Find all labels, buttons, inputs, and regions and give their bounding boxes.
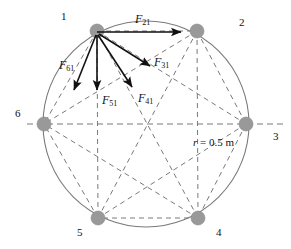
force-label-F21: F21	[135, 13, 150, 25]
vertex-label-3: 3	[273, 131, 279, 142]
vertex-label-2: 2	[239, 17, 245, 28]
vertex-label-4: 4	[216, 227, 222, 238]
vertex-label-1: 1	[61, 11, 67, 22]
chord-2-3	[197, 31, 246, 124]
charge-node-5	[91, 211, 105, 225]
charge-node-4	[191, 211, 205, 225]
force-arrow-F31	[99, 34, 150, 66]
chord-2-6	[44, 31, 197, 124]
chord-5-6	[44, 124, 98, 218]
force-label-F31: F31	[154, 56, 169, 68]
radius-annotation: r = 0.5 m	[193, 137, 234, 148]
force-diagram-figure: 123456F21F31F41F51F61 r = 0.5 m	[0, 0, 291, 249]
force-label-F51: F51	[102, 94, 117, 106]
chord-1-3	[97, 31, 246, 124]
force-label-F61: F61	[59, 59, 74, 71]
charge-node-6	[37, 117, 51, 131]
force-label-F41: F41	[138, 92, 153, 104]
chord-2-4	[197, 31, 198, 218]
diagram-canvas	[0, 0, 291, 249]
force-arrow-F61	[74, 35, 96, 90]
charge-node-2	[190, 24, 204, 38]
vertex-label-6: 6	[15, 108, 21, 119]
chord-1-6	[44, 31, 97, 124]
charge-node-3	[239, 117, 253, 131]
vertex-label-5: 5	[77, 227, 83, 238]
